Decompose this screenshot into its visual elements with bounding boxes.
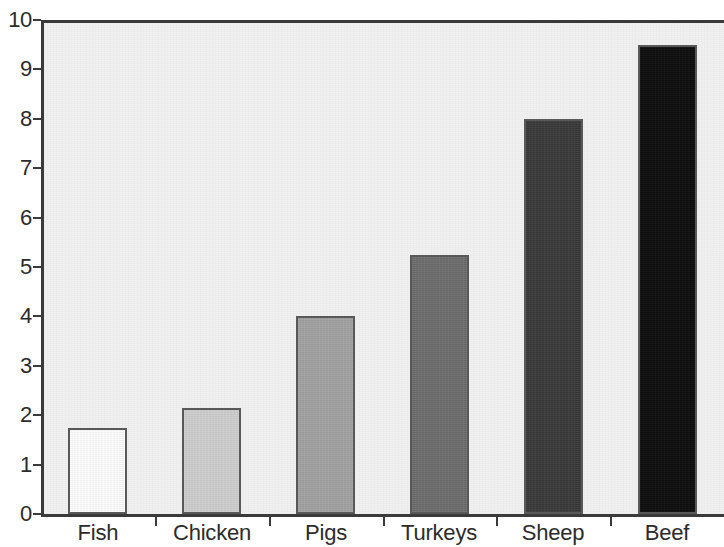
bar-turkeys xyxy=(410,255,469,514)
bar-grain-texture xyxy=(184,410,239,512)
x-axis-label-turkeys: Turkeys xyxy=(382,521,496,545)
bar-sheep xyxy=(524,119,583,514)
y-axis-tick-label: 2 xyxy=(0,404,32,426)
y-axis-tick xyxy=(33,365,41,367)
y-axis-tick-label: 8 xyxy=(0,108,32,130)
axis-spine-left xyxy=(41,20,44,517)
y-axis-tick xyxy=(33,217,41,219)
bar-grain-texture xyxy=(70,430,125,512)
y-axis-tick xyxy=(33,167,41,169)
bar-beef xyxy=(638,45,697,514)
y-axis-tick xyxy=(33,19,41,21)
plot-grain-texture xyxy=(41,20,724,514)
y-axis-tick-label: 3 xyxy=(0,355,32,377)
x-axis-label-sheep: Sheep xyxy=(496,521,610,545)
y-axis-tick xyxy=(33,315,41,317)
x-axis-label-pigs: Pigs xyxy=(269,521,383,545)
y-axis-tick xyxy=(33,266,41,268)
bar-grain-texture xyxy=(640,47,695,512)
y-axis-tick-label: 1 xyxy=(0,454,32,476)
y-axis-tick-label: 4 xyxy=(0,305,32,327)
y-axis-tick xyxy=(33,118,41,120)
bar-pigs xyxy=(296,316,355,514)
x-axis-label-beef: Beef xyxy=(610,521,724,545)
y-axis-tick-label: 9 xyxy=(0,58,32,80)
bar-grain-texture xyxy=(412,257,467,512)
y-axis-tick-label: 10 xyxy=(0,9,32,31)
y-axis-tick xyxy=(33,513,41,515)
bar-grain-texture xyxy=(526,121,581,512)
x-axis-label-chicken: Chicken xyxy=(155,521,269,545)
y-axis-tick xyxy=(33,414,41,416)
bar-grain-texture xyxy=(298,318,353,512)
y-axis-tick-label: 0 xyxy=(0,503,32,525)
x-axis-label-fish: Fish xyxy=(41,521,155,545)
bar-fish xyxy=(68,428,127,514)
y-axis-tick-label: 7 xyxy=(0,157,32,179)
bar-chart-figure: 012345678910 FishChickenPigsTurkeysSheep… xyxy=(0,0,724,547)
axis-spine-top xyxy=(41,20,724,23)
y-axis-tick-label: 6 xyxy=(0,207,32,229)
bar-chicken xyxy=(182,408,241,514)
plot-area xyxy=(41,20,724,514)
y-axis-tick-label: 5 xyxy=(0,256,32,278)
y-axis-tick xyxy=(33,464,41,466)
y-axis-tick xyxy=(33,68,41,70)
